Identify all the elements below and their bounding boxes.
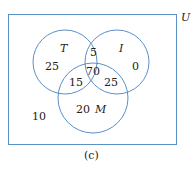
region-t-and-m: 15 [69,76,83,89]
set-t-label: T [60,42,69,55]
region-t-and-i: 5 [90,46,97,59]
region-outside: 10 [32,110,46,123]
universe-rectangle [9,15,177,145]
set-i-label: I [118,42,124,55]
region-m-only: 20 [76,103,90,116]
region-t-i-m: 70 [86,65,100,78]
venn-diagram: U T I M 25 5 0 70 15 25 20 10 (c) [0,0,195,172]
caption: (c) [84,149,99,162]
universe-label: U [181,11,191,24]
set-m-label: M [94,103,107,116]
region-i-only: 0 [132,60,139,73]
region-i-and-m: 25 [104,76,118,89]
region-t-only: 25 [45,60,59,73]
set-t-circle [33,30,97,94]
